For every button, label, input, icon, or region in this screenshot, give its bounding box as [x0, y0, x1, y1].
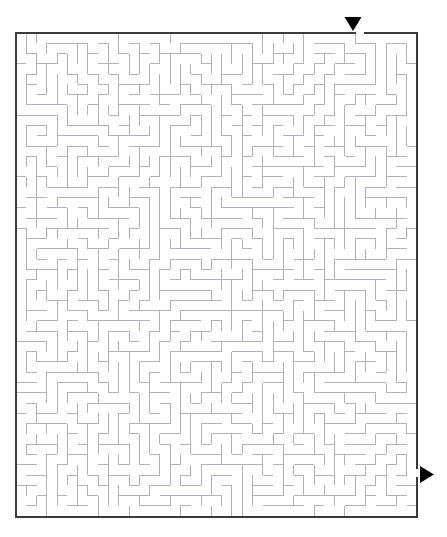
maze-canvas [0, 0, 447, 537]
maze-page [0, 0, 447, 537]
maze-figure [0, 0, 447, 537]
